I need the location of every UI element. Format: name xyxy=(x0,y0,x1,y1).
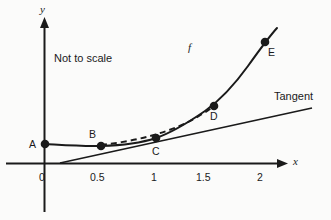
y-axis-label: y xyxy=(40,4,45,15)
x-axis-arrowhead xyxy=(277,159,288,168)
x-tick-label-3: 1.5 xyxy=(196,172,211,183)
point-label-a: A xyxy=(29,139,36,150)
point-marker-e xyxy=(261,38,270,47)
x-tick-label-0: 0 xyxy=(39,172,45,183)
point-marker-a xyxy=(41,140,50,149)
x-axis-label: x xyxy=(293,156,298,167)
not-to-scale-note: Not to scale xyxy=(54,53,112,64)
point-label-e: E xyxy=(268,47,275,58)
x-tick-label-2: 1 xyxy=(151,172,157,183)
point-marker-c xyxy=(152,134,161,143)
point-marker-d xyxy=(210,102,219,111)
point-label-d: D xyxy=(210,111,218,122)
graph-canvas xyxy=(0,0,331,220)
tangent-line xyxy=(60,108,312,163)
x-tick-label-1: 0.5 xyxy=(90,172,105,183)
function-name-label: f xyxy=(188,42,191,53)
point-label-c: C xyxy=(152,146,160,157)
function-curve-f xyxy=(44,28,277,146)
point-marker-b xyxy=(97,142,106,151)
function-graph-figure: y x 0 0.5 1 1.5 2 Not to scale f Tangent… xyxy=(0,0,331,220)
y-axis-arrowhead xyxy=(40,17,49,28)
x-tick-label-4: 2 xyxy=(257,172,263,183)
point-label-b: B xyxy=(89,129,96,140)
tangent-line-label: Tangent xyxy=(274,91,313,102)
